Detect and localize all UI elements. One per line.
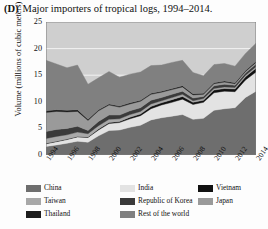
y-tick-label: 25: [20, 18, 42, 26]
legend-swatch: [120, 211, 135, 218]
plot-area: [46, 22, 256, 155]
figure-panel-d: (D) Major importers of tropical logs, 19…: [0, 0, 268, 229]
legend-label: Taiwan: [44, 197, 66, 205]
legend-label: Vietnam: [216, 184, 241, 192]
legend: ChinaIndiaVietnamTaiwanRepublic of Korea…: [26, 184, 266, 226]
legend-swatch: [26, 185, 41, 192]
legend-label: Republic of Korea: [138, 197, 193, 205]
stacked-area-chart: [46, 22, 256, 155]
legend-item-vietnam[interactable]: Vietnam: [198, 184, 241, 192]
legend-label: Rest of the world: [138, 210, 189, 218]
y-tick-label: 15: [20, 71, 42, 79]
y-tick-label: 5: [20, 124, 42, 132]
panel-title-text: Major importers of tropical logs, 1994–2…: [23, 3, 213, 14]
legend-item-republic-of-korea[interactable]: Republic of Korea: [120, 197, 193, 205]
legend-label: Thailand: [44, 210, 70, 218]
y-tick-label: 10: [20, 98, 42, 106]
legend-item-taiwan[interactable]: Taiwan: [26, 197, 66, 205]
legend-item-japan[interactable]: Japan: [198, 197, 233, 205]
legend-label: China: [44, 184, 62, 192]
y-tick-label: 20: [20, 45, 42, 53]
y-tick-label: 0: [20, 151, 42, 159]
legend-swatch: [120, 198, 135, 205]
x-axis-ticks: 1994199619982000200220042006200820102012…: [46, 157, 258, 183]
legend-swatch: [198, 198, 213, 205]
legend-label: India: [138, 184, 153, 192]
legend-swatch: [120, 185, 135, 192]
legend-swatch: [26, 211, 41, 218]
legend-label: Japan: [216, 197, 233, 205]
legend-swatch: [26, 198, 41, 205]
legend-item-rest-of-the-world[interactable]: Rest of the world: [120, 210, 189, 218]
x-tick-label: 2014: [254, 145, 268, 163]
legend-item-thailand[interactable]: Thailand: [26, 210, 70, 218]
legend-swatch: [198, 185, 213, 192]
legend-item-china[interactable]: China: [26, 184, 62, 192]
legend-item-india[interactable]: India: [120, 184, 153, 192]
